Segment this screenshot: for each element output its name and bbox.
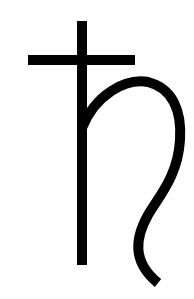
saturn-symbol-canvas: ♄: [0, 0, 194, 299]
sickle-curve: [82, 81, 180, 283]
saturn-icon: [0, 0, 194, 299]
